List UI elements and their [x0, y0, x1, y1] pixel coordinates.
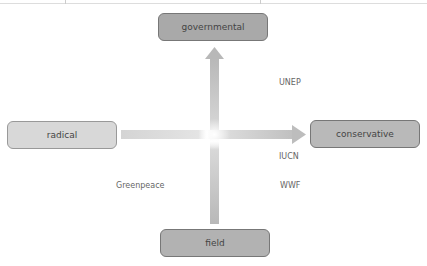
- label-iucn: IUCN: [279, 152, 299, 161]
- center-glow: [199, 119, 231, 151]
- label-greenpeace: Greenpeace: [116, 181, 164, 190]
- arrowhead-up-icon: [205, 47, 224, 59]
- node-governmental-label: governmental: [182, 22, 245, 32]
- node-conservative-label: conservative: [336, 129, 394, 139]
- node-governmental: governmental: [158, 13, 268, 41]
- label-unep: UNEP: [279, 78, 301, 87]
- arrowhead-right-icon: [292, 125, 306, 144]
- label-wwf: WWF: [280, 181, 300, 190]
- node-field: field: [160, 229, 270, 257]
- node-radical: radical: [7, 121, 117, 149]
- node-radical-label: radical: [47, 130, 77, 140]
- node-field-label: field: [205, 238, 224, 248]
- node-conservative: conservative: [310, 120, 420, 148]
